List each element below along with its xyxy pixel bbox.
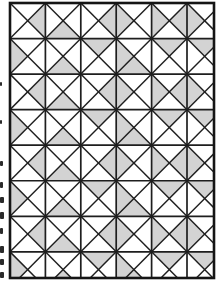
pattern-cells [10,3,220,287]
margin-speck [0,259,4,265]
margin-speck [0,197,4,203]
margin-speck [0,228,3,234]
margin-speck [0,212,4,219]
pattern-canvas [0,0,220,288]
quilt-pattern-figure [0,0,220,288]
margin-speck [0,182,3,188]
margin-speck [0,161,3,166]
margin-speck [0,120,2,124]
margin-speck [0,246,4,253]
margin-speck [0,82,2,86]
margin-speck [0,272,4,278]
